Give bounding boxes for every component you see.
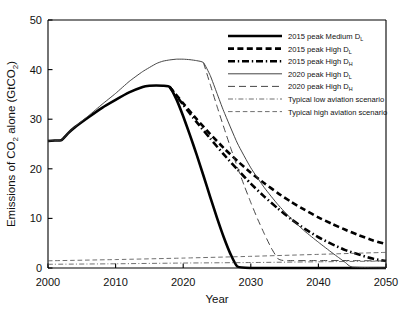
x-tick-label: 2010 bbox=[103, 276, 127, 288]
y-tick-label: 50 bbox=[30, 14, 42, 26]
emissions-line-chart: 01020304050 200020102020203020402050 Emi… bbox=[0, 0, 405, 327]
chart-legend: 2015 peak Medium DL2015 peak High DL2015… bbox=[228, 32, 387, 117]
legend-label-1: 2015 peak Medium DL bbox=[288, 32, 363, 42]
legend-label-3: 2015 peak High DH bbox=[288, 57, 353, 67]
y-tick-label: 30 bbox=[30, 113, 42, 125]
series-line-5 bbox=[203, 63, 386, 261]
y-tick-label: 40 bbox=[30, 64, 42, 76]
y-axis-ticks: 01020304050 bbox=[30, 14, 53, 274]
series-line-7 bbox=[48, 252, 386, 260]
chart-figure: 01020304050 200020102020203020402050 Emi… bbox=[0, 0, 405, 327]
legend-label-7: Typical high aviation scenario bbox=[288, 108, 387, 117]
x-tick-label: 2000 bbox=[36, 276, 60, 288]
y-tick-label: 0 bbox=[36, 262, 42, 274]
y-axis-title: Emissions of CO2 alone (GtCO2) bbox=[5, 61, 20, 227]
x-tick-label: 2030 bbox=[239, 276, 263, 288]
legend-label-4: 2020 peak High DL bbox=[288, 70, 352, 80]
y-tick-label: 10 bbox=[30, 212, 42, 224]
legend-label-5: 2020 peak High DH bbox=[288, 82, 353, 92]
x-axis-title: Year bbox=[205, 293, 228, 305]
x-tick-label: 2050 bbox=[374, 276, 398, 288]
x-tick-label: 2020 bbox=[171, 276, 195, 288]
series-line-6 bbox=[48, 261, 386, 264]
y-tick-label: 20 bbox=[30, 163, 42, 175]
legend-label-2: 2015 peak High DL bbox=[288, 45, 352, 55]
x-tick-label: 2040 bbox=[306, 276, 330, 288]
legend-label-6: Typical low aviation scenario bbox=[288, 95, 384, 104]
